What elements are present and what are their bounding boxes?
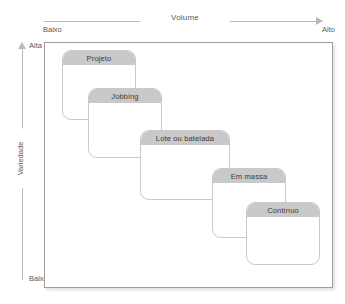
variedade-axis-high-label: Alta <box>29 41 42 50</box>
process-box-label: Projeto <box>87 54 112 63</box>
volume-axis-low-label: Baixo <box>43 25 62 34</box>
volume-axis-title: Volume <box>140 13 230 22</box>
process-box-label: Em massa <box>231 172 268 181</box>
diagram-frame: Projeto Jobbing Lote ou batelada Em mass… <box>44 42 333 288</box>
process-box-label: Contínuo <box>267 206 299 215</box>
process-box-header: Projeto <box>63 51 135 65</box>
variedade-axis-title: Variedade <box>14 129 27 189</box>
process-box-header: Jobbing <box>89 89 161 103</box>
arrow-right-icon <box>316 17 323 25</box>
process-box-continuo: Contínuo <box>246 202 320 265</box>
volume-variety-diagram: Volume Baixo Alto Alta Baixa Variedade P… <box>0 0 345 304</box>
process-box-header: Lote ou batelada <box>141 131 229 145</box>
volume-axis-high-label: Alto <box>322 25 335 34</box>
process-box-label: Jobbing <box>111 92 138 101</box>
process-box-header: Em massa <box>213 169 285 183</box>
process-box-label: Lote ou batelada <box>156 134 214 143</box>
process-box-header: Contínuo <box>247 203 319 217</box>
arrow-up-icon <box>18 42 26 49</box>
